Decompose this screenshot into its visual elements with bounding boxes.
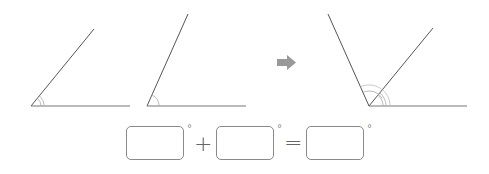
answer-box-1[interactable] [126,126,184,160]
answer-box-2[interactable] [216,126,274,160]
angle-combined-arc-left [363,91,382,98]
equals-sign: = [284,132,302,154]
angle-1-arc-inner [37,98,41,106]
degree-symbol-2: ° [277,124,282,134]
degree-symbol-1: ° [187,124,192,134]
right-arrow-icon [277,55,296,70]
angle-combined-arc-inner [378,95,383,106]
plus-sign: + [194,133,212,155]
degree-symbol-3: ° [367,124,372,134]
angle-combined [328,14,467,106]
answer-box-3[interactable] [306,126,364,160]
angle-1 [31,29,130,106]
angle-2-arc [152,95,159,106]
angle-2 [147,14,246,106]
